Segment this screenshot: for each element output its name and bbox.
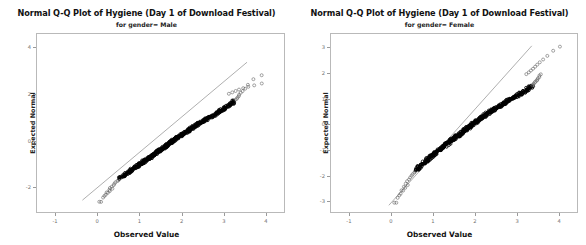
data-point [546,54,549,57]
plot-area [330,33,578,213]
chart-subtitle: for gender= Female [293,21,586,28]
y-axis-tick [327,73,330,74]
data-point [244,87,247,90]
y-axis-tick [327,150,330,151]
qq-panel-female: Normal Q-Q Plot of Hygiene (Day 1 of Dow… [293,0,586,245]
data-point [242,87,245,90]
y-axis-tick-label: 0 [14,138,31,144]
data-point [231,91,234,94]
data-point [234,89,237,92]
data-point [542,58,545,61]
chart-title: Normal Q-Q Plot of Hygiene (Day 1 of Dow… [0,8,293,18]
data-point [536,63,539,66]
x-axis-tick-label: 1 [138,218,141,224]
x-axis-tick [559,213,560,216]
x-axis-tick [224,213,225,216]
x-axis-tick [97,213,98,216]
x-axis-tick [475,213,476,216]
y-axis-tick [327,201,330,202]
chart-title: Normal Q-Q Plot of Hygiene (Day 1 of Dow… [293,8,586,18]
y-axis-tick-label: 2 [14,91,31,97]
x-axis-tick-label: -1 [346,218,351,224]
data-point [393,201,396,204]
x-axis-tick [433,213,434,216]
y-axis-tick-label: -2 [14,184,31,190]
reference-line [82,62,247,200]
data-point [260,74,263,77]
y-axis-tick [327,99,330,100]
y-axis-tick [327,124,330,125]
x-axis-tick [517,213,518,216]
y-axis-tick-label: -3 [308,198,325,204]
x-axis-tick [139,213,140,216]
x-axis-tick-label: 3 [222,218,225,224]
x-axis-tick-label: 1 [431,218,434,224]
y-axis-tick [33,187,36,188]
x-axis-tick-label: 2 [473,218,476,224]
x-axis-tick-label: 3 [515,218,518,224]
x-axis-tick [55,213,56,216]
data-point [252,78,255,81]
data-point [538,61,541,64]
data-point [260,82,263,85]
qq-plot-pair: Normal Q-Q Plot of Hygiene (Day 1 of Dow… [0,0,586,245]
data-point [241,90,244,93]
chart-subtitle: for gender= Male [0,21,293,28]
x-axis-tick-label: 0 [389,218,392,224]
y-axis-tick-label: 3 [308,44,325,50]
y-axis-tick [33,94,36,95]
data-point [406,180,409,183]
x-axis-tick-label: 4 [557,218,560,224]
y-axis-tick [327,47,330,48]
data-point [227,92,230,95]
plot-area [36,33,285,213]
x-axis-tick [182,213,183,216]
x-axis-label: Observed Value [0,230,293,239]
y-axis-tick-label: 2 [308,70,325,76]
scatter-canvas [36,33,285,213]
data-point [253,84,256,87]
qq-panel-male: Normal Q-Q Plot of Hygiene (Day 1 of Dow… [0,0,293,245]
x-axis-tick [349,213,350,216]
y-axis-tick-label: 4 [14,44,31,50]
x-axis-tick-label: -1 [52,218,57,224]
y-axis-tick-label: -2 [308,173,325,179]
y-axis-tick-label: -1 [308,147,325,153]
y-axis-tick-label: 0 [308,121,325,127]
reference-line [389,46,532,205]
x-axis-tick-label: 2 [180,218,183,224]
x-axis-tick-label: 4 [264,218,267,224]
x-axis-tick-label: 0 [96,218,99,224]
x-axis-tick [391,213,392,216]
y-axis-tick [33,47,36,48]
x-axis-tick [266,213,267,216]
y-axis-tick [327,176,330,177]
scatter-canvas [330,33,578,213]
data-point [247,85,250,88]
data-point [552,49,555,52]
x-axis-label: Observed Value [293,230,586,239]
data-point [558,45,561,48]
y-axis-tick-label: 1 [308,96,325,102]
y-axis-tick [33,141,36,142]
data-point [396,196,399,199]
data-point [238,88,241,91]
